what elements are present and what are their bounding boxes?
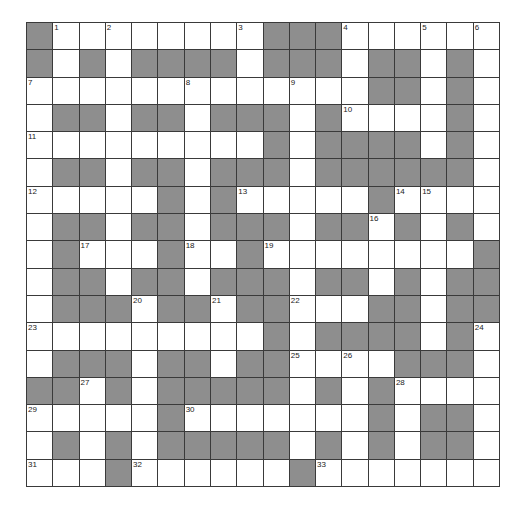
answer-cell[interactable]	[80, 132, 105, 158]
answer-cell[interactable]	[27, 296, 52, 322]
answer-cell[interactable]	[474, 432, 499, 458]
answer-cell[interactable]: 12	[27, 187, 52, 213]
answer-cell[interactable]	[53, 460, 78, 486]
answer-cell[interactable]	[211, 405, 236, 431]
answer-cell[interactable]: 29	[27, 405, 52, 431]
answer-cell[interactable]	[211, 323, 236, 349]
answer-cell[interactable]	[106, 241, 131, 267]
answer-cell[interactable]	[106, 323, 131, 349]
answer-cell[interactable]: 33	[316, 460, 341, 486]
answer-cell[interactable]	[290, 187, 315, 213]
answer-cell[interactable]	[27, 241, 52, 267]
answer-cell[interactable]	[290, 159, 315, 185]
answer-cell[interactable]: 31	[27, 460, 52, 486]
answer-cell[interactable]	[369, 23, 394, 49]
answer-cell[interactable]	[185, 269, 210, 295]
answer-cell[interactable]	[264, 405, 289, 431]
answer-cell[interactable]	[342, 187, 367, 213]
answer-cell[interactable]	[474, 378, 499, 404]
answer-cell[interactable]	[395, 460, 420, 486]
answer-cell[interactable]	[342, 378, 367, 404]
answer-cell[interactable]	[211, 78, 236, 104]
answer-cell[interactable]	[237, 78, 262, 104]
answer-cell[interactable]	[474, 460, 499, 486]
answer-cell[interactable]	[80, 432, 105, 458]
answer-cell[interactable]	[316, 351, 341, 377]
answer-cell[interactable]	[185, 159, 210, 185]
answer-cell[interactable]	[80, 323, 105, 349]
answer-cell[interactable]	[447, 241, 472, 267]
answer-cell[interactable]	[237, 132, 262, 158]
answer-cell[interactable]	[132, 23, 157, 49]
answer-cell[interactable]	[290, 405, 315, 431]
answer-cell[interactable]	[474, 50, 499, 76]
answer-cell[interactable]	[342, 432, 367, 458]
answer-cell[interactable]	[106, 269, 131, 295]
answer-cell[interactable]: 17	[80, 241, 105, 267]
answer-cell[interactable]: 14	[395, 187, 420, 213]
answer-cell[interactable]: 13	[237, 187, 262, 213]
answer-cell[interactable]	[53, 187, 78, 213]
answer-cell[interactable]	[290, 378, 315, 404]
answer-cell[interactable]	[395, 432, 420, 458]
answer-cell[interactable]	[158, 78, 183, 104]
answer-cell[interactable]	[132, 78, 157, 104]
answer-cell[interactable]	[132, 132, 157, 158]
answer-cell[interactable]	[474, 351, 499, 377]
answer-cell[interactable]	[290, 132, 315, 158]
answer-cell[interactable]	[474, 214, 499, 240]
answer-cell[interactable]	[132, 323, 157, 349]
answer-cell[interactable]	[53, 78, 78, 104]
answer-cell[interactable]	[264, 460, 289, 486]
answer-cell[interactable]	[342, 405, 367, 431]
answer-cell[interactable]: 32	[132, 460, 157, 486]
answer-cell[interactable]: 8	[185, 78, 210, 104]
answer-cell[interactable]	[237, 323, 262, 349]
answer-cell[interactable]	[474, 159, 499, 185]
answer-cell[interactable]	[342, 460, 367, 486]
answer-cell[interactable]	[264, 78, 289, 104]
answer-cell[interactable]	[237, 460, 262, 486]
answer-cell[interactable]	[185, 323, 210, 349]
answer-cell[interactable]	[185, 105, 210, 131]
answer-cell[interactable]	[316, 187, 341, 213]
answer-cell[interactable]: 3	[237, 23, 262, 49]
answer-cell[interactable]	[474, 132, 499, 158]
answer-cell[interactable]	[369, 269, 394, 295]
answer-cell[interactable]: 21	[211, 296, 236, 322]
answer-cell[interactable]	[80, 460, 105, 486]
answer-cell[interactable]	[342, 50, 367, 76]
answer-cell[interactable]	[342, 78, 367, 104]
answer-cell[interactable]	[421, 296, 446, 322]
answer-cell[interactable]	[106, 105, 131, 131]
answer-cell[interactable]	[290, 241, 315, 267]
answer-cell[interactable]	[421, 132, 446, 158]
answer-cell[interactable]	[369, 241, 394, 267]
answer-cell[interactable]: 26	[342, 351, 367, 377]
answer-cell[interactable]	[421, 105, 446, 131]
answer-cell[interactable]	[27, 432, 52, 458]
answer-cell[interactable]	[132, 378, 157, 404]
answer-cell[interactable]	[395, 23, 420, 49]
answer-cell[interactable]	[369, 351, 394, 377]
answer-cell[interactable]: 25	[290, 351, 315, 377]
answer-cell[interactable]	[53, 323, 78, 349]
answer-cell[interactable]	[290, 432, 315, 458]
answer-cell[interactable]	[290, 214, 315, 240]
answer-cell[interactable]	[369, 105, 394, 131]
answer-cell[interactable]	[447, 187, 472, 213]
answer-cell[interactable]	[53, 132, 78, 158]
answer-cell[interactable]: 1	[53, 23, 78, 49]
answer-cell[interactable]	[132, 432, 157, 458]
answer-cell[interactable]: 2	[106, 23, 131, 49]
answer-cell[interactable]	[316, 296, 341, 322]
answer-cell[interactable]: 22	[290, 296, 315, 322]
answer-cell[interactable]: 5	[421, 23, 446, 49]
answer-cell[interactable]	[421, 78, 446, 104]
answer-cell[interactable]	[27, 214, 52, 240]
answer-cell[interactable]	[474, 105, 499, 131]
answer-cell[interactable]	[447, 460, 472, 486]
answer-cell[interactable]	[106, 214, 131, 240]
answer-cell[interactable]	[395, 241, 420, 267]
answer-cell[interactable]: 6	[474, 23, 499, 49]
